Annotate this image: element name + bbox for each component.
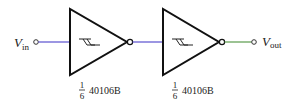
svg-text:40106B: 40106B (182, 85, 214, 96)
svg-text:1: 1 (173, 80, 178, 90)
gate-1-part-label: 1 6 40106B (79, 80, 121, 101)
svg-text:6: 6 (173, 91, 178, 101)
gate-2-part-label: 1 6 40106B (172, 80, 214, 101)
input-terminal-icon (34, 40, 39, 45)
svg-text:1: 1 (80, 80, 85, 90)
gate-2-schmitt-inverter-icon (163, 9, 225, 75)
gate-1-schmitt-inverter-icon (70, 9, 133, 75)
circuit-diagram: Vin Vout 1 6 40106B 1 6 40106B (0, 0, 293, 104)
vout-label: Vout (262, 34, 282, 50)
svg-text:6: 6 (80, 91, 85, 101)
vin-label: Vin (14, 35, 29, 52)
svg-text:40106B: 40106B (89, 85, 121, 96)
output-terminal-icon (252, 40, 257, 45)
